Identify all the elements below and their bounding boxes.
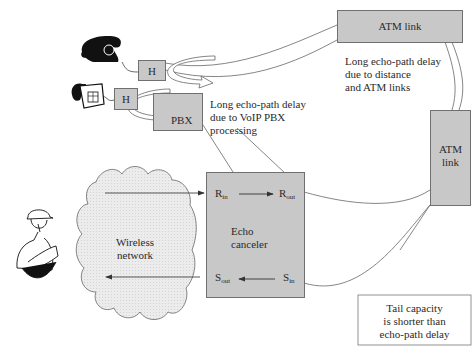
atm-delay-line1: Long echo-path delay [345,55,441,68]
hybrid-box-1-label: H [148,65,156,77]
pbx-label: PBX [171,114,192,127]
wireless-network-label: Wireless network [116,236,154,262]
tail-capacity-line3: echo-path delay [358,328,471,341]
tail-capacity-line1: Tail capacity [358,302,471,315]
wireless-network-line2: network [116,249,154,262]
atm-delay-annotation: Long echo-path delay due to distance and… [345,55,441,94]
atm-link-right-line1: ATM [431,143,470,156]
atm-delay-line3: and ATM links [345,81,441,94]
atm-link-top-label: ATM link [378,20,421,32]
mobile-worker-icon [17,210,58,278]
atm-link-right: ATM link [430,110,471,206]
pbx-delay-line2: due to VoIP PBX [210,111,306,124]
atm-link-top: ATM link [337,10,463,43]
atm-delay-line2: due to distance [345,68,441,81]
tail-capacity-annotation: Tail capacity is shorter than echo-path … [358,302,471,341]
pbx-delay-annotation: Long echo-path delay due to VoIP PBX pro… [210,98,306,137]
desk-telephone-icon [72,84,104,108]
atm-link-right-line2: link [431,156,470,169]
pbx-delay-line1: Long echo-path delay [210,98,306,111]
hybrid-box-2-label: H [122,93,130,105]
wireless-network-line1: Wireless [116,236,154,249]
canceler-internal-arrows [207,173,306,299]
tail-capacity-line2: is shorter than [358,315,471,328]
hybrid-box-1: H [138,60,166,81]
pbx-box: PBX [153,93,203,131]
rotary-telephone-icon [81,36,121,62]
pbx-delay-line3: processing [210,124,306,137]
echo-canceler-box: Rin Rout Sout Sin Echo canceler [206,172,305,298]
hybrid-box-2: H [114,88,138,110]
